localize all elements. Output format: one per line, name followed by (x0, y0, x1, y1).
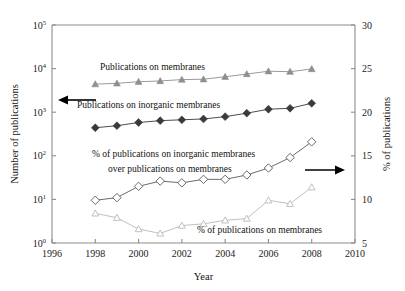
x-tick-label: 1996 (42, 248, 62, 259)
series-annotation-3: % of publications on inorganic membranes (92, 149, 255, 159)
x-tick-label: 2006 (258, 248, 278, 259)
x-tick-label: 2010 (345, 248, 365, 259)
data-point-marker (243, 171, 251, 179)
y-tick-label-right: 25 (362, 63, 372, 74)
y-tick-label-left: 100 (33, 237, 46, 249)
y-tick-label-right: 15 (362, 150, 372, 161)
data-point-marker (308, 138, 316, 146)
publications-chart-figure: 19961998200020022004200620082010Year1001… (0, 0, 405, 291)
data-point-marker (264, 164, 272, 172)
y-tick-label-right: 5 (362, 238, 367, 249)
data-point-marker (286, 153, 294, 161)
x-tick-label: 2004 (215, 248, 235, 259)
y-tick-label-left: 103 (33, 106, 46, 118)
y-tick-label-right: 30 (362, 20, 372, 31)
y-tick-label-left: 105 (33, 19, 46, 31)
y-tick-label-left: 102 (33, 149, 46, 161)
series-annotation-4: over publications on membranes (108, 164, 232, 174)
data-point-marker (113, 193, 121, 201)
data-point-marker (199, 175, 207, 183)
data-point-marker (308, 66, 315, 72)
data-point-marker (265, 105, 273, 113)
right-axis-arrow (305, 166, 345, 175)
right-arrow-head (335, 166, 345, 175)
y-tick-label-right: 20 (362, 107, 372, 118)
left-arrow-head (58, 96, 68, 105)
data-point-marker (308, 99, 316, 107)
data-point-marker (156, 117, 164, 125)
series-annotation-5: % of publications on membranes (197, 225, 322, 235)
x-tick-label: 2002 (172, 248, 192, 259)
x-axis-title: Year (194, 271, 214, 282)
data-point-marker (156, 177, 164, 185)
data-point-marker (178, 179, 186, 187)
data-point-marker (200, 115, 208, 123)
x-tick-label: 2000 (129, 248, 149, 259)
data-point-marker (308, 184, 315, 190)
chart-canvas: 19961998200020022004200620082010Year1001… (0, 0, 405, 291)
data-point-marker (135, 226, 142, 232)
data-point-marker (91, 124, 99, 132)
data-point-marker (134, 182, 142, 190)
data-point-marker (221, 175, 229, 183)
data-point-marker (135, 119, 143, 127)
data-point-marker (113, 122, 121, 130)
x-tick-label: 1998 (85, 248, 105, 259)
data-point-marker (221, 113, 229, 121)
series-annotation-1: Publications on membranes (100, 62, 205, 72)
y-tick-label-left: 104 (33, 62, 47, 74)
data-point-marker (92, 210, 99, 216)
y-axis-title-right: % of publications (381, 97, 392, 171)
y-axis-title-left: Number of publications (9, 84, 20, 184)
series-annotation-2: Publications on inorganic membranes (77, 100, 220, 110)
data-point-marker (265, 197, 272, 203)
y-tick-label-right: 10 (362, 194, 372, 205)
data-point-marker (91, 196, 99, 204)
x-tick-label: 2008 (302, 248, 322, 259)
data-point-marker (286, 104, 294, 112)
y-tick-label-left: 101 (33, 193, 46, 205)
data-point-marker (178, 116, 186, 124)
data-point-marker (243, 109, 251, 117)
